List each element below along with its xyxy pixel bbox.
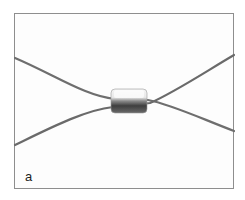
wire-crimp-photo [0,0,245,200]
figure-label: a [25,170,32,183]
